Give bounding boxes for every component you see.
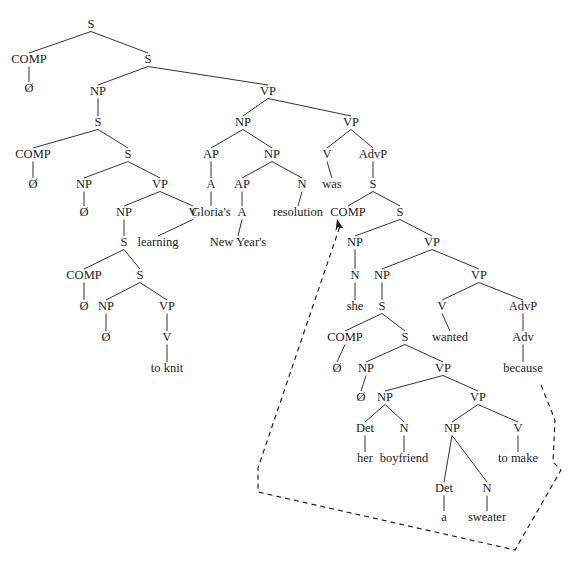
tree-branch <box>361 376 366 392</box>
tree-node-label: V <box>513 421 522 435</box>
tree-node-label: S <box>379 299 386 313</box>
movement-arrowhead-icon <box>336 219 344 232</box>
tree-branch <box>158 220 193 237</box>
tree-node-label: S <box>145 52 152 66</box>
tree-branch <box>272 162 302 179</box>
tree-terminal-label: a <box>441 510 447 524</box>
tree-node-label: Det <box>356 421 375 435</box>
tree-branch <box>243 99 268 117</box>
tree-branch <box>478 405 518 423</box>
tree-terminal-label: New Year's <box>210 235 267 249</box>
tree-branch <box>268 99 351 117</box>
tree-branch <box>385 376 443 392</box>
tree-node-label: S <box>95 115 102 129</box>
tree-terminal-label: her <box>357 451 374 465</box>
tree-branch <box>405 345 443 363</box>
tree-branch <box>385 405 404 423</box>
syntax-tree-figure: SCOMPØSNPSCOMPØSNPØVPNPSCOMPØSNPØVPVto k… <box>0 0 586 580</box>
tree-node-label: NP <box>347 235 363 249</box>
tree-branches-layer <box>29 32 523 512</box>
tree-node-label: COMP <box>11 52 46 66</box>
tree-node-label: VP <box>435 361 451 375</box>
tree-branch <box>98 67 148 86</box>
tree-node-label: COMP <box>327 330 362 344</box>
tree-branch <box>29 32 91 54</box>
tree-node-label: N <box>399 421 408 435</box>
tree-branch <box>160 192 193 207</box>
tree-node-label: V <box>322 147 331 161</box>
tree-branch <box>84 162 128 179</box>
tree-node-label: VP <box>260 84 276 98</box>
tree-node-label: NP <box>90 84 106 98</box>
tree-node-label: NP <box>98 299 114 313</box>
tree-node-label: NP <box>235 115 251 129</box>
tree-node-label: S <box>121 235 128 249</box>
tree-node-label: S <box>125 147 132 161</box>
tree-branch <box>327 162 332 179</box>
tree-branch <box>84 250 124 270</box>
tree-terminal-label: boyfriend <box>380 451 429 465</box>
tree-terminal-label: Ø <box>79 205 88 219</box>
tree-node-label: NP <box>76 177 92 191</box>
tree-node-label: N <box>297 177 306 191</box>
tree-terminal-label: sweater <box>468 510 507 524</box>
tree-branch <box>351 130 373 149</box>
tree-node-label: VP <box>471 268 487 282</box>
tree-branch <box>128 162 160 179</box>
tree-node-label: VP <box>343 115 359 129</box>
tree-terminal-label: because <box>503 361 543 375</box>
tree-branch <box>432 250 479 270</box>
syntax-tree-canvas: SCOMPØSNPSCOMPØSNPØVPNPSCOMPØSNPØVPVto k… <box>0 0 586 580</box>
tree-node-label: A <box>237 205 246 219</box>
tree-terminal-label: Ø <box>79 299 88 313</box>
tree-node-label: VP <box>152 177 168 191</box>
tree-node-label: Adv <box>512 330 534 344</box>
tree-node-label: COMP <box>330 205 365 219</box>
tree-branch <box>400 220 432 237</box>
tree-node-label: V <box>162 330 171 344</box>
tree-nodes-layer: SCOMPØSNPSCOMPØSNPØVPNPSCOMPØSNPØVPVto k… <box>11 17 543 524</box>
tree-node-label: N <box>482 481 491 495</box>
tree-node-label: AdvP <box>359 147 388 161</box>
tree-node-label: N <box>350 268 359 282</box>
tree-node-label: NP <box>374 268 390 282</box>
tree-branch <box>365 405 385 423</box>
tree-terminal-label: learning <box>138 235 180 249</box>
tree-terminal-label: was <box>322 177 342 191</box>
tree-node-label: COMP <box>15 147 50 161</box>
tree-terminal-label: to knit <box>151 361 184 375</box>
tree-branch <box>148 67 268 86</box>
tree-branch <box>382 314 405 332</box>
tree-branch <box>242 162 272 179</box>
tree-branch <box>442 283 479 301</box>
tree-node-label: S <box>397 205 404 219</box>
movement-dashed-line <box>258 226 561 550</box>
tree-branch <box>298 192 302 207</box>
tree-node-label: AdvP <box>509 299 538 313</box>
tree-node-label: S <box>402 330 409 344</box>
tree-terminal-label: Ø <box>101 330 110 344</box>
tree-branch <box>444 436 452 483</box>
tree-terminal-label: wanted <box>432 330 469 344</box>
tree-branch <box>373 192 400 207</box>
tree-branch <box>366 345 405 363</box>
tree-branch <box>443 376 478 392</box>
tree-node-label: NP <box>444 421 460 435</box>
tree-branch <box>348 192 373 207</box>
tree-terminal-label: Ø <box>332 361 341 375</box>
tree-node-label: A <box>206 177 215 191</box>
tree-node-label: AP <box>234 177 250 191</box>
tree-branch <box>452 436 487 483</box>
tree-terminal-label: Ø <box>356 390 365 404</box>
tree-branch <box>33 130 98 149</box>
tree-branch <box>211 130 243 149</box>
tree-terminal-label: Gloria's <box>191 205 230 219</box>
tree-node-label: NP <box>377 390 393 404</box>
tree-node-label: NP <box>264 147 280 161</box>
tree-node-label: S <box>137 268 144 282</box>
tree-terminal-label: she <box>347 299 364 313</box>
tree-node-label: V <box>437 299 446 313</box>
tree-branch <box>355 220 400 237</box>
tree-node-label: S <box>88 17 95 31</box>
tree-terminal-label: Ø <box>24 81 33 95</box>
